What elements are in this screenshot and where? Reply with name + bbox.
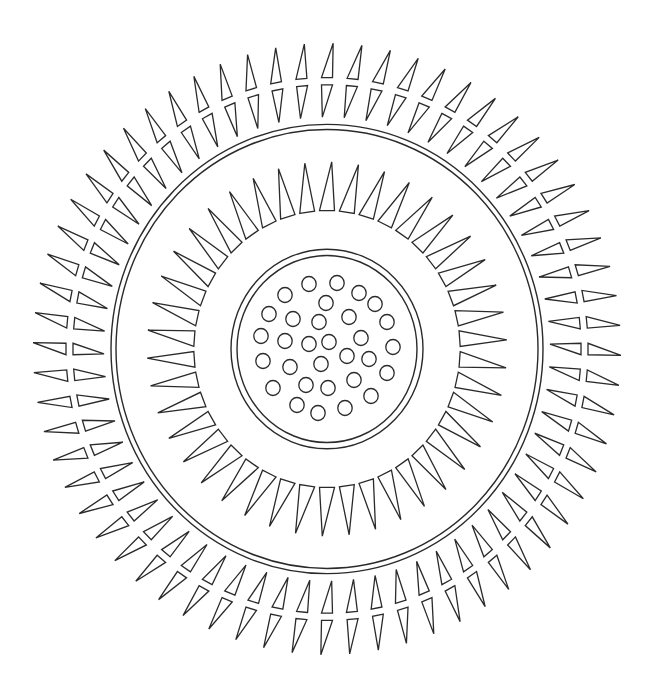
inner-pointing-triangle (272, 89, 283, 123)
inner-pointing-triangle (74, 317, 105, 331)
inner-pointing-triangle (465, 141, 493, 167)
inner-spike-triangle (459, 352, 506, 368)
inner-spike-triangle (230, 192, 259, 239)
center-dots (254, 276, 400, 421)
center-dot (362, 352, 376, 367)
inner-spike-triangle (300, 163, 315, 213)
center-dot (278, 334, 292, 349)
outer-spike-triangle (44, 422, 79, 433)
inner-pointing-triangle (472, 525, 492, 557)
center-dot (283, 360, 297, 375)
outer-spike-triangle (541, 495, 568, 524)
center-dot (311, 406, 325, 421)
inner-spike-triangle (161, 276, 206, 306)
inner-pointing-triangle (535, 433, 564, 455)
inner-spike-triangle (359, 172, 385, 220)
outer-spike-triangle (525, 517, 550, 548)
inner-pointing-triangle (272, 577, 288, 609)
center-dot (368, 297, 382, 312)
inner-pointing-triangle (225, 103, 238, 137)
inner-pointing-triangle (408, 103, 429, 133)
mandala-artwork (0, 0, 655, 677)
mandala-canvas (0, 0, 655, 677)
outer-spike-triangle (398, 607, 409, 643)
inner-spike-triangle (148, 330, 195, 346)
outer-spike-triangle (33, 343, 66, 355)
outer-spike-triangle (566, 238, 601, 250)
outer-spike-triangle (136, 555, 166, 581)
inner-spike-triangle (455, 311, 503, 326)
center-dot (314, 357, 328, 372)
inner-pointing-triangle (531, 243, 564, 256)
outer-spike-triangle (40, 283, 72, 302)
center-dot (322, 335, 336, 350)
inner-spike-triangle (448, 285, 496, 306)
center-dot (319, 296, 333, 311)
inner-pointing-triangle (539, 267, 572, 278)
outer-spike-triangle (71, 199, 100, 226)
inner-spike-triangle (269, 479, 295, 527)
outer-spike-triangle (373, 50, 391, 83)
outer-spike-triangle (38, 396, 73, 407)
center-dot (380, 366, 394, 381)
outer-spike-triangle (115, 537, 147, 561)
inner-pointing-triangle (144, 158, 167, 188)
inner-pointing-triangle (371, 575, 382, 609)
outer-spike-triangle (220, 64, 232, 100)
inner-pointing-triangle (77, 292, 108, 309)
outer-spike-triangle (588, 343, 621, 355)
inner-pointing-triangle (90, 243, 119, 265)
outer-spike-triangle (124, 128, 147, 161)
inner-pointing-triangle (225, 565, 246, 595)
inner-pointing-triangle (550, 343, 581, 354)
outer-spike-triangle (582, 290, 617, 301)
inner-pointing-triangle (395, 569, 406, 603)
inner-pointing-triangle (542, 412, 572, 432)
inner-spike-triangle (455, 372, 501, 395)
inner-spike-triangle (278, 169, 295, 219)
center-dot (380, 315, 394, 330)
inner-pointing-triangle (162, 141, 182, 173)
outer-spike-triangle (508, 537, 531, 570)
inner-pointing-triangle (74, 369, 106, 380)
outer-spike-triangle (566, 448, 596, 472)
center-dot (299, 378, 313, 393)
center-dot (286, 312, 300, 327)
inner-pointing-triangle (526, 454, 554, 479)
center-dot (302, 337, 316, 352)
outer-spike-triangle (467, 572, 485, 607)
outer-spike-triangle (488, 117, 518, 143)
outer-spike-triangle (86, 174, 113, 203)
outer-spike-triangle (104, 150, 129, 181)
inner-pointing-triangle (344, 86, 357, 118)
outer-spike-triangle (321, 620, 333, 654)
outer-spike-triangle (53, 448, 88, 460)
outer-spike-triangle (508, 137, 540, 161)
inner-spike-triangle (396, 459, 425, 506)
center-dot (354, 331, 368, 346)
outer-spike-triangle (236, 607, 257, 640)
outer-spike-triangle (292, 619, 307, 653)
outer-spike-triangle (264, 614, 282, 647)
inner-pointing-triangle (521, 219, 553, 235)
inner-pointing-triangle (366, 89, 382, 121)
inner-spike-triangle (245, 470, 276, 515)
inner-pointing-triangle (502, 492, 527, 521)
inner-pointing-triangle (515, 474, 541, 501)
inner-pointing-triangle (202, 113, 217, 146)
center-dot (342, 310, 356, 325)
outer-spike-triangle (586, 370, 619, 385)
inner-pointing-triangle (417, 561, 430, 595)
inner-spike-triangle (320, 487, 335, 536)
outer-spike-triangle (541, 184, 575, 202)
inner-pointing-triangle (90, 442, 123, 455)
center-dot (321, 381, 335, 396)
inner-pointing-triangle (548, 317, 580, 328)
outer-spike-triangle (169, 91, 187, 126)
outer-spike-triangle (65, 472, 100, 488)
inner-pointing-triangle (322, 85, 333, 117)
center-dot (312, 315, 326, 330)
inner-pointing-triangle (428, 113, 452, 142)
center-dot (302, 277, 316, 292)
inner-pointing-triangle (77, 395, 109, 406)
